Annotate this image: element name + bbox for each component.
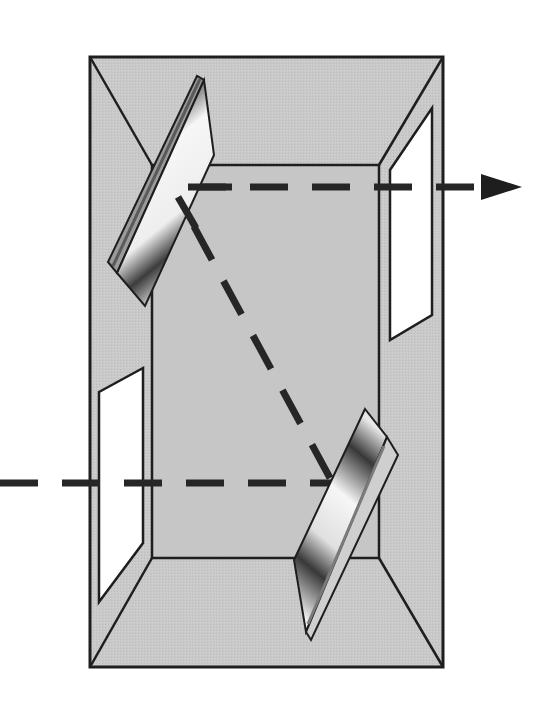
arrow-head-icon [481, 174, 522, 200]
optical-cell-diagram: Optical cell with two angled mirrors and… [0, 0, 549, 704]
